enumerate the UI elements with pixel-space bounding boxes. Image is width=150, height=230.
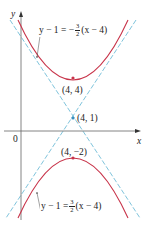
y-axis-arrow-icon <box>19 11 23 17</box>
leader-dot-bottom <box>36 192 38 194</box>
x-axis-label: x <box>136 136 142 146</box>
leader-dot-top <box>36 56 38 58</box>
vertex-lower-label: (4, −2) <box>61 147 87 158</box>
y-axis-label: y <box>10 9 16 19</box>
vertex-upper-dot <box>71 76 74 79</box>
eq-bottom-lhs: y − 1 = <box>41 201 68 211</box>
eq-top-frac: 3 2 <box>75 23 80 37</box>
eq-bottom-rhs: (x − 4) <box>76 201 102 211</box>
eq-top-lhs: y − 1 = − <box>39 25 74 35</box>
eq-top-frac-den: 2 <box>76 31 79 38</box>
x-axis-arrow-icon <box>135 129 141 133</box>
eq-bottom-frac: 3 2 <box>69 199 74 213</box>
asymptote-top-equation: y − 1 = − 3 2 (x − 4) <box>38 23 108 37</box>
asymptote-bottom-equation: y − 1 = 3 2 (x − 4) <box>40 199 103 213</box>
vertex-upper-label: (4, 4) <box>62 85 83 96</box>
eq-bottom-frac-den: 2 <box>70 207 73 214</box>
center-label: (4, 1) <box>77 113 98 124</box>
leader-line-top <box>37 36 40 57</box>
asymptote-negative-slope <box>10 20 140 218</box>
center-dot <box>71 116 74 119</box>
eq-top-rhs: (x − 4) <box>81 25 107 35</box>
origin-label: 0 <box>13 134 18 144</box>
asymptote-positive-slope <box>6 20 136 218</box>
